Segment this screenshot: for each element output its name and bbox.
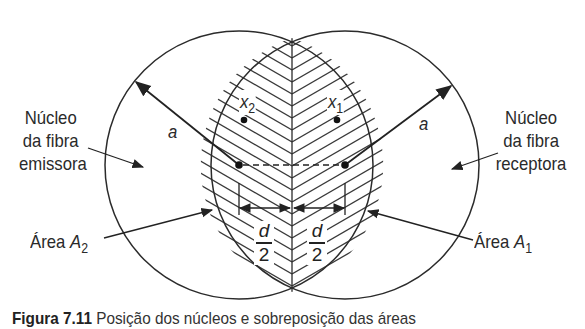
half-distance-label-left: d 2: [254, 221, 274, 265]
area-a2-subscript: 2: [81, 240, 88, 256]
receiver-core-line-3: receptora: [495, 152, 567, 175]
emitter-center-dot: [235, 161, 243, 169]
area-a1-pointer: [368, 211, 473, 240]
area-a2-pointer: [104, 210, 212, 238]
radius-label-right: a: [419, 112, 428, 135]
point-x2-symbol: x: [240, 91, 248, 112]
emitter-core-line-1: Núcleo: [19, 106, 82, 129]
fraction-denominator: 2: [254, 245, 274, 265]
receiver-core-line-2: da fibra: [495, 129, 567, 152]
emitter-core-line-3: emissora: [19, 152, 82, 175]
figure-number: Figura 7.11: [12, 309, 92, 328]
fraction-numerator: d: [254, 221, 274, 241]
radius-label-left: a: [168, 120, 177, 143]
caption-text: Posição dos núcleos e sobreposição das á…: [96, 309, 416, 328]
point-x1-symbol: x: [328, 91, 336, 112]
point-x2-subscript: 2: [248, 100, 255, 116]
emitter-core-line-2: da fibra: [19, 129, 82, 152]
fraction-numerator: d: [307, 221, 327, 241]
area-a1-text: Área: [474, 231, 514, 252]
receiver-core-pointer: [452, 153, 498, 169]
area-a2-text: Área: [30, 231, 70, 252]
emitter-core-label: Núcleo da fibra emissora: [19, 106, 82, 175]
area-a2-label: Área A2: [30, 230, 88, 255]
receiver-center-dot: [341, 161, 349, 169]
receiver-core-line-1: Núcleo: [495, 106, 567, 129]
overlap-hatching: [150, 0, 434, 310]
point-x2-label: x2: [239, 90, 256, 115]
area-a1-label: Área A1: [474, 230, 532, 255]
area-a1-subscript: 1: [525, 240, 532, 256]
receiver-core-label: Núcleo da fibra receptora: [495, 106, 567, 175]
area-a1-symbol: A: [514, 231, 525, 252]
point-x1-subscript: 1: [336, 100, 343, 116]
radius-arrow-left: [136, 82, 239, 165]
point-x1-label: x1: [327, 90, 344, 115]
fraction-denominator: 2: [307, 245, 327, 265]
point-x1-dot: [334, 117, 341, 124]
area-a2-symbol: A: [70, 231, 81, 252]
half-distance-label-right: d 2: [307, 221, 327, 265]
emitter-core-pointer: [88, 148, 143, 167]
point-x2-dot: [241, 117, 248, 124]
figure-caption: Figura 7.11 Posição dos núcleos e sobrep…: [12, 309, 416, 329]
